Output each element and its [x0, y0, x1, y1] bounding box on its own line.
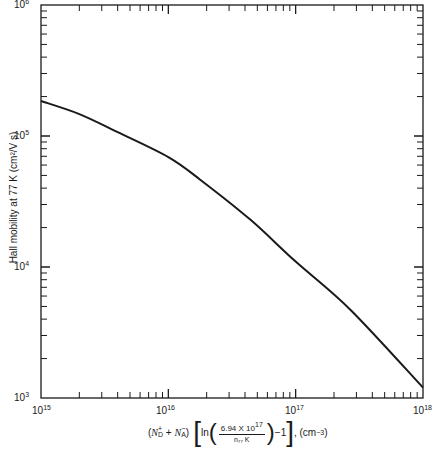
y-tick-label-1e4: 104 — [14, 260, 29, 272]
x-tick-label-1e16: 1016 — [156, 404, 175, 416]
mobility-curve — [41, 101, 423, 388]
x-tick-label-1e15: 1015 — [32, 404, 51, 416]
y-tick-label-1e3: 103 — [14, 391, 29, 403]
axis-ticks — [41, 5, 423, 398]
x-tick-label-1e17: 1017 — [285, 404, 304, 416]
x-axis-title: ( N+D + N−A ) [ ln ( 6.94 X 1017 n₇₇ K )… — [148, 418, 328, 446]
x-tick-label-1e18: 1018 — [413, 404, 432, 416]
fraction: 6.94 X 1017 n₇₇ K — [219, 421, 265, 443]
chart-canvas — [0, 0, 435, 458]
plot-frame — [41, 5, 423, 398]
y-tick-label-1e5: 105 — [14, 129, 29, 141]
y-tick-label-1e6: 106 — [14, 0, 29, 10]
